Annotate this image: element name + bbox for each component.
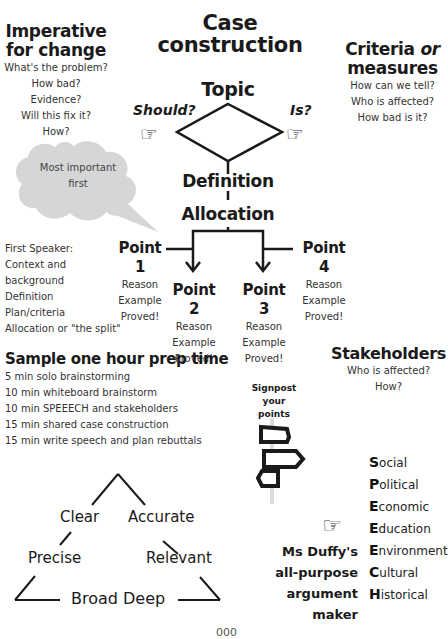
imperative-heading: Imperative for change (0, 22, 112, 60)
first-speaker-notes: First Speaker: Context and background De… (5, 241, 121, 337)
speeech-item: Cultural (369, 562, 448, 584)
criteria-heading: Criteria or measures (338, 40, 447, 78)
criteria-questions: How can we tell? Who is affected? How ba… (338, 78, 447, 126)
point-3: Point 3 Reason Example Proved! (236, 281, 292, 367)
criteria-section: Criteria or measures How can we tell? Wh… (338, 40, 447, 126)
signpost-icon (258, 418, 303, 504)
topic-label: Topic (200, 80, 256, 99)
speeech-item: Economic (369, 496, 448, 518)
hand-pointing-right-icon: ☞ (140, 124, 158, 144)
argument-maker-label: Ms Duffy's all-purpose argument maker (270, 541, 358, 625)
prep-section: Sample one hour prep time 5 min solo bra… (5, 350, 228, 449)
speeech-item: Education (369, 518, 448, 540)
speeech-item: Social (369, 452, 448, 474)
triangle-accurate: Accurate (128, 508, 194, 526)
speeech-acronym: Social Political Economic Education Envi… (369, 452, 448, 606)
hand-pointing-right-icon: ☞ (286, 124, 304, 144)
triangle-clear: Clear (60, 508, 99, 526)
page-number: 000 (216, 626, 237, 639)
stakeholders-section: Stakeholders Who is affected? How? (330, 344, 447, 395)
imperative-section: Imperative for change What's the problem… (0, 22, 112, 140)
prep-items: 5 min solo brainstorming 10 min whiteboa… (5, 369, 228, 449)
prep-heading: Sample one hour prep time (5, 350, 228, 369)
speeech-item: Environment (369, 540, 448, 562)
is-label: Is? (290, 102, 312, 118)
signpost-label: Signpost your points (246, 382, 302, 421)
allocation-label: Allocation (178, 205, 278, 224)
speeech-item: Historical (369, 584, 448, 606)
triangle-bottom: Broad Deep (71, 589, 165, 608)
bubble-text: Most important first (28, 160, 128, 192)
should-label: Should? (133, 102, 196, 118)
page-title: Case construction (150, 12, 310, 56)
triangle-precise: Precise (28, 549, 81, 567)
point-4: Point 4 Reason Example Proved! (296, 239, 352, 325)
hand-pointing-right-icon: ☞ (322, 515, 342, 537)
speeech-item: Political (369, 474, 448, 496)
definition-label: Definition (180, 172, 276, 191)
triangle-relevant: Relevant (146, 549, 212, 567)
imperative-questions: What's the problem? How bad? Evidence? W… (0, 60, 112, 140)
stakeholders-heading: Stakeholders (330, 344, 447, 363)
